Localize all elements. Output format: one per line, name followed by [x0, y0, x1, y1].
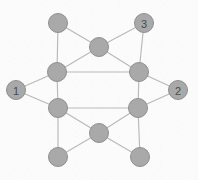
- graph-node-hex-upper-right[interactable]: [130, 63, 149, 82]
- graph-node-hex-lower-right[interactable]: [129, 99, 148, 118]
- node-label-3: 3: [141, 18, 147, 30]
- graph-figure: 312: [0, 0, 198, 180]
- graph-node-hex-bottom[interactable]: [90, 124, 109, 143]
- graph-canvas: 312: [0, 0, 198, 180]
- graph-node-top-left-outer[interactable]: [49, 14, 68, 33]
- node-labels-layer: 312: [13, 18, 181, 97]
- node-label-2: 2: [175, 85, 181, 97]
- graph-node-hex-top[interactable]: [90, 38, 109, 57]
- graph-node-hex-lower-left[interactable]: [49, 99, 68, 118]
- nodes-layer: [7, 14, 188, 167]
- node-label-1: 1: [13, 85, 19, 97]
- graph-node-hex-upper-left[interactable]: [48, 63, 67, 82]
- graph-node-bottom-left-outer[interactable]: [49, 148, 68, 167]
- graph-node-bottom-right-outer[interactable]: [131, 148, 150, 167]
